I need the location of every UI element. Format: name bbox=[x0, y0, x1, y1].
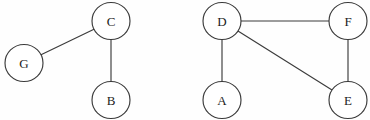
graph-svg: GCBDFAE bbox=[0, 0, 370, 120]
graph-node-label-b: B bbox=[107, 93, 116, 108]
graph-node-label-e: E bbox=[344, 93, 352, 108]
node-layer: GCBDFAE bbox=[5, 3, 367, 119]
graph-node-a[interactable]: A bbox=[203, 82, 241, 119]
graph-node-f[interactable]: F bbox=[329, 3, 367, 40]
graph-node-label-c: C bbox=[107, 14, 116, 29]
graph-diagram-canvas: GCBDFAE bbox=[0, 0, 370, 120]
graph-node-label-d: D bbox=[217, 14, 226, 29]
graph-node-e[interactable]: E bbox=[329, 82, 367, 119]
graph-node-c[interactable]: C bbox=[92, 3, 130, 40]
graph-node-g[interactable]: G bbox=[5, 45, 43, 82]
graph-node-d[interactable]: D bbox=[203, 3, 241, 40]
graph-edge-d-e bbox=[238, 31, 332, 90]
graph-node-label-f: F bbox=[344, 14, 351, 29]
edge-layer bbox=[41, 21, 348, 90]
graph-node-label-g: G bbox=[19, 56, 28, 71]
graph-edge-g-c bbox=[41, 29, 94, 55]
graph-node-b[interactable]: B bbox=[92, 82, 130, 119]
graph-node-label-a: A bbox=[217, 93, 227, 108]
